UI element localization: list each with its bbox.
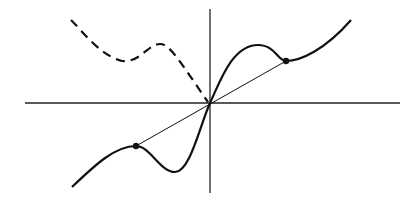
dashed-curve [71, 20, 208, 102]
right-point-dot [283, 58, 289, 64]
left-point-dot [133, 143, 139, 149]
function-diagram [0, 0, 418, 201]
